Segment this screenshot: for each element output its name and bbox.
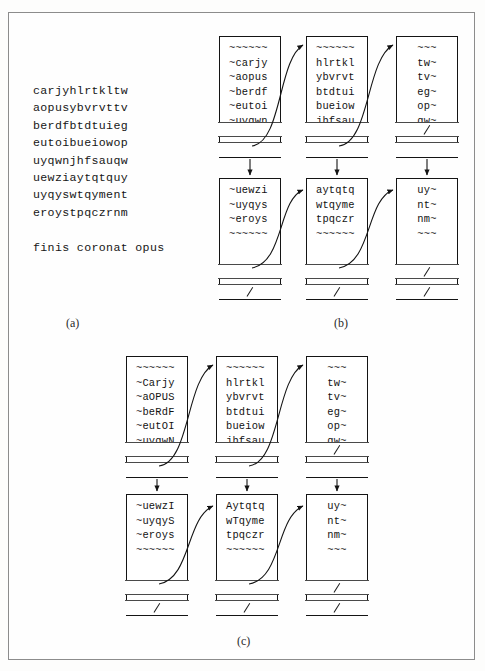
node-pointer-cell-2	[215, 600, 278, 615]
node-text: uy~ nt~ nm~ ~~~	[307, 495, 367, 557]
node-text: ~~~~~~ ~Carjy ~aOPUS ~beRdF ~eutOI ~uyqw…	[127, 357, 187, 449]
node-b-r1c1: ~~~~~~ ~carjy ~aopus ~berdf ~eutoi ~uyqw…	[219, 36, 281, 158]
null-pointer-slash-icon	[244, 603, 251, 613]
node-b-r1c2: ~~~~~~ hlrtkl ybvrvt btdtui bueiow jhfsa…	[306, 36, 368, 158]
node-pointer-cell-1	[215, 580, 278, 595]
node-pointer-cell-2	[218, 284, 281, 299]
null-pointer-slash-icon	[247, 287, 254, 297]
node-pointer-cell-1	[305, 442, 368, 457]
node-text: ~~~ tw~ tv~ eg~ op~ qw~	[307, 357, 367, 449]
null-pointer-slash-icon	[154, 603, 161, 613]
panel-a-plaintext: carjyhlrtkltw aopusybvrvttv berdfbtdtuie…	[33, 82, 165, 256]
null-pointer-slash-icon	[334, 444, 341, 454]
null-pointer-slash-icon	[424, 287, 431, 297]
node-pointer-cell-1	[215, 442, 278, 457]
node-c-r2c3: uy~ nt~ nm~ ~~~	[306, 494, 368, 616]
node-pointer-cell-2	[395, 284, 458, 299]
node-pointer-cell-1	[395, 122, 458, 137]
null-pointer-slash-icon	[334, 287, 341, 297]
node-pointer-cell-2	[218, 142, 281, 157]
node-c-r2c1: ~uewzI ~uyqyS ~eroys ~~~~~~	[126, 494, 188, 616]
node-pointer-cell-1	[125, 442, 188, 457]
node-text: ~uewzi ~uyqys ~eroys ~~~~~~	[220, 179, 280, 241]
node-pointer-cell-2	[395, 142, 458, 157]
node-c-r1c2: ~~~~~~ hlrtkl ybvrvt btdtui bueiow jhfsa…	[216, 356, 278, 478]
node-text: ~uewzI ~uyqyS ~eroys ~~~~~~	[127, 495, 187, 557]
node-pointer-cell-1	[218, 122, 281, 137]
null-pointer-slash-icon	[424, 266, 431, 276]
null-pointer-slash-icon	[424, 124, 431, 134]
node-b-r2c3: uy~ nt~ nm~ ~~~	[396, 178, 458, 300]
node-pointer-cell-2	[215, 462, 278, 477]
node-c-r2c2: Aytqtq wTqyme tpqczr ~~~~~~	[216, 494, 278, 616]
node-text: Aytqtq wTqyme tpqczr ~~~~~~	[217, 495, 277, 557]
node-pointer-cell-1	[395, 264, 458, 279]
node-pointer-cell-1	[218, 264, 281, 279]
node-pointer-cell-1	[125, 580, 188, 595]
node-text: ~~~~~~ ~carjy ~aopus ~berdf ~eutoi ~uyqw…	[220, 37, 280, 129]
node-text: ~~~~~~ hlrtkl ybvrvt btdtui bueiow jhfsa…	[307, 37, 367, 129]
node-pointer-cell-2	[305, 600, 368, 615]
caption-a: (a)	[66, 316, 79, 331]
node-c-r1c1: ~~~~~~ ~Carjy ~aOPUS ~beRdF ~eutOI ~uyqw…	[126, 356, 188, 478]
node-pointer-cell-2	[305, 462, 368, 477]
null-pointer-slash-icon	[334, 582, 341, 592]
caption-b: (b)	[334, 316, 348, 331]
node-pointer-cell-2	[305, 142, 368, 157]
node-pointer-cell-2	[305, 284, 368, 299]
node-text: aytqtq wtqyme tpqczr ~~~~~~	[307, 179, 367, 241]
node-pointer-cell-2	[125, 600, 188, 615]
node-pointer-cell-1	[305, 580, 368, 595]
node-c-r1c3: ~~~ tw~ tv~ eg~ op~ qw~	[306, 356, 368, 478]
node-b-r2c1: ~uewzi ~uyqys ~eroys ~~~~~~	[219, 178, 281, 300]
node-text: uy~ nt~ nm~ ~~~	[397, 179, 457, 241]
caption-c: (c)	[237, 634, 250, 649]
null-pointer-slash-icon	[334, 603, 341, 613]
node-pointer-cell-2	[125, 462, 188, 477]
node-b-r2c2: aytqtq wtqyme tpqczr ~~~~~~	[306, 178, 368, 300]
node-text: ~~~ tw~ tv~ eg~ op~ qw~	[397, 37, 457, 129]
figure-canvas: carjyhlrtkltw aopusybvrvttv berdfbtdtuie…	[0, 0, 485, 671]
node-text: ~~~~~~ hlrtkl ybvrvt btdtui bueiow jhfsa…	[217, 357, 277, 449]
node-pointer-cell-1	[305, 264, 368, 279]
node-b-r1c3: ~~~ tw~ tv~ eg~ op~ qw~	[396, 36, 458, 158]
node-pointer-cell-1	[305, 122, 368, 137]
